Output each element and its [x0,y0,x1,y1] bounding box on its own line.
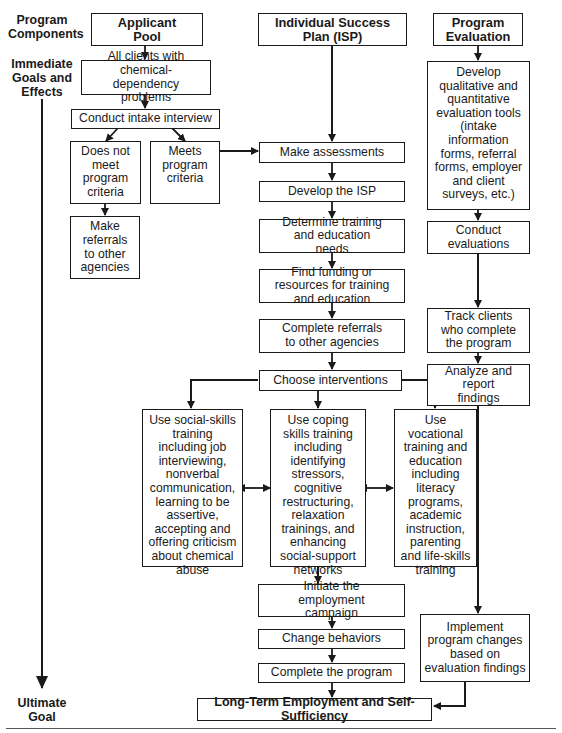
step-determine-needs: Determine training and education needs [259,219,405,253]
step-change-behaviors: Change behaviors [258,629,405,649]
label-program-components: Program Components [8,13,76,41]
step-find-funding: Find funding or resources for training a… [259,269,405,303]
step-choose-interventions: Choose interventions [259,370,402,391]
intervention-social-skills: Use social-skills training including job… [142,409,243,567]
eval-analyze-report: Analyze and report findings [427,364,530,406]
step-make-referrals: Make referrals to other agencies [70,216,140,279]
header-program-evaluation: Program Evaluation [433,13,523,46]
final-goal: Long-Term Employment and Self-Sufficienc… [197,698,432,721]
step-develop-isp: Develop the ISP [259,181,405,202]
step-initiate-campaign: Initiate the employment campaign [258,584,405,617]
eval-develop-tools: Develop qualitative and quantitative eva… [427,61,530,210]
header-applicant-pool: Applicant Pool [91,13,203,46]
step-complete-referrals: Complete referrals to other agencies [259,319,405,353]
eval-conduct: Conduct evaluations [427,221,530,254]
eval-implement-changes: Implement program changes based on evalu… [420,614,530,682]
step-all-clients: All clients with chemical-dependency pro… [81,60,211,95]
intervention-vocational: Use vocational training and education in… [394,409,477,567]
step-meets-criteria: Meets program criteria [150,141,220,204]
step-make-assessments: Make assessments [259,142,405,163]
bottom-divider [6,728,556,729]
step-does-not-meet: Does not meet program criteria [70,141,141,204]
label-ultimate-goal: Ultimate Goal [14,696,70,724]
step-intake-interview: Conduct intake interview [71,109,220,129]
intervention-coping-skills: Use coping skills training including ide… [270,409,366,567]
step-complete-program: Complete the program [258,663,405,683]
label-immediate-goals: Immediate Goals and Effects [8,57,76,99]
header-isp: Individual Success Plan (ISP) [258,13,407,46]
eval-track-clients: Track clients who complete the program [427,308,530,353]
